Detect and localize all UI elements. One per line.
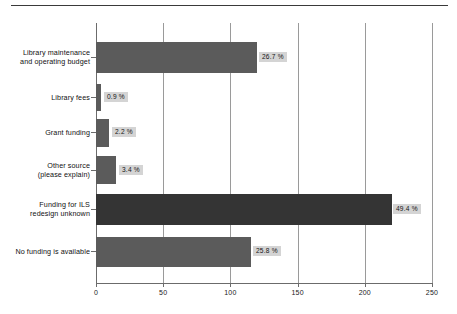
- x-tick-label-100: 100: [224, 289, 236, 296]
- x-tick-label-0: 0: [94, 289, 98, 296]
- bar-value-label: 3.4 %: [119, 165, 143, 175]
- category-label: Grant funding: [45, 128, 90, 137]
- x-tick-mark-200: [365, 283, 366, 287]
- gridline-250: [432, 23, 433, 283]
- category-label: No funding is available: [15, 247, 90, 256]
- category-label: Library fees: [51, 93, 90, 102]
- category-label: Other source (please explain): [38, 161, 90, 179]
- x-tick-label-150: 150: [291, 289, 303, 296]
- bar-value-label: 2.2 %: [112, 127, 136, 137]
- gridline-200: [365, 23, 366, 283]
- bar[interactable]: [96, 156, 116, 184]
- x-tick-mark-100: [230, 283, 231, 287]
- x-axis-line: [96, 283, 433, 284]
- bar-value-label: 0.9 %: [104, 92, 128, 102]
- bar[interactable]: [96, 119, 109, 147]
- x-tick-label-50: 50: [159, 289, 167, 296]
- bar-chart-figure: 0 50 100 150 200 250 Library maintenance…: [0, 0, 457, 314]
- x-tick-label-250: 250: [426, 289, 438, 296]
- category-label: Library maintenance and operating budget: [20, 48, 90, 66]
- gridline-150: [298, 23, 299, 283]
- x-tick-label-200: 200: [359, 289, 371, 296]
- x-tick-mark-50: [163, 283, 164, 287]
- bar[interactable]: [96, 237, 251, 267]
- bar[interactable]: [96, 194, 392, 225]
- x-tick-mark-250: [432, 283, 433, 287]
- bar-value-label: 25.8 %: [253, 246, 281, 256]
- bar[interactable]: [96, 84, 101, 111]
- x-tick-mark-150: [298, 283, 299, 287]
- bar[interactable]: [96, 42, 257, 73]
- bar-value-label: 49.4 %: [393, 204, 421, 214]
- x-tick-mark-0: [96, 283, 97, 287]
- bar-value-label: 26.7 %: [259, 52, 287, 62]
- category-label: Funding for ILS redesign unknown: [30, 200, 90, 218]
